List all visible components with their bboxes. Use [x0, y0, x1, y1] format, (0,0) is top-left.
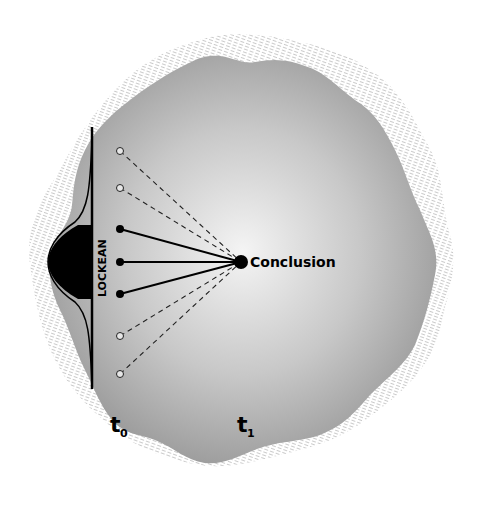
filled-premise-node: [116, 258, 124, 266]
filled-premise-node: [116, 225, 124, 233]
t0-subscript: 0: [120, 427, 128, 440]
open-premise-node: [117, 185, 124, 192]
lockean-label: LOCKEAN: [96, 239, 109, 297]
open-premise-node: [117, 333, 124, 340]
conclusion-label: Conclusion: [250, 254, 336, 270]
conclusion-node: [234, 255, 248, 269]
diagram-canvas: LOCKEAN Conclusion t 0 t 1: [0, 0, 484, 517]
filled-premise-node: [116, 290, 124, 298]
t1-subscript: 1: [247, 427, 255, 440]
open-premise-node: [117, 148, 124, 155]
open-premise-node: [117, 371, 124, 378]
